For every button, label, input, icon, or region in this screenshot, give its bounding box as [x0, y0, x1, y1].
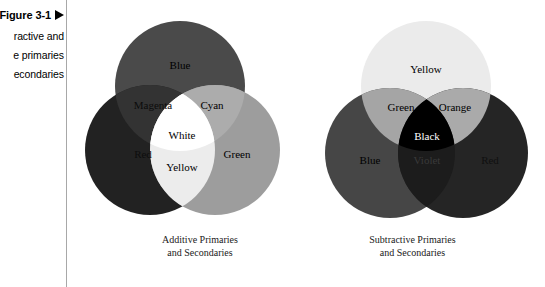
label-black: Black: [414, 130, 440, 142]
additive-venn-svg: Blue Red Green Magenta Cyan White Yellow: [85, 18, 285, 223]
label-green: Green: [224, 148, 251, 160]
additive-caption: Additive Primaries and Secondaries: [130, 233, 270, 259]
subtractive-caption-line-2: and Secondaries: [330, 246, 495, 259]
additive-caption-line-1: Additive Primaries: [130, 233, 270, 246]
label-blue-sub: Blue: [360, 154, 381, 166]
figure-description-line-2: e primaries: [0, 49, 64, 61]
label-yellow-additive: Yellow: [166, 161, 197, 173]
subtractive-caption-line-1: Subtractive Primaries: [330, 233, 495, 246]
label-blue: Blue: [170, 59, 191, 71]
label-red-sub: Red: [481, 154, 499, 166]
figure-number-label: Figure 3-1: [0, 9, 51, 21]
additive-venn-diagram: Blue Red Green Magenta Cyan White Yellow: [85, 18, 285, 223]
left-pointing-triangle-icon: [55, 10, 64, 20]
label-cyan: Cyan: [200, 99, 224, 111]
additive-caption-line-2: and Secondaries: [130, 246, 270, 259]
label-violet: Violet: [414, 154, 441, 166]
label-yellow-sub: Yellow: [410, 63, 441, 75]
margin-caption-column: Figure 3-1 ractive and e primaries econd…: [0, 0, 66, 287]
label-white: White: [169, 129, 196, 141]
subtractive-venn-diagram: Yellow Blue Red Green Orange Violet Blac…: [298, 18, 533, 223]
figure-description-line-1: ractive and: [0, 30, 64, 42]
figure-number-row: Figure 3-1: [0, 9, 64, 21]
figure-description-line-3: econdaries: [0, 68, 64, 80]
subtractive-venn-svg: Yellow Blue Red Green Orange Violet Blac…: [298, 18, 533, 223]
subtractive-caption: Subtractive Primaries and Secondaries: [330, 233, 495, 259]
margin-divider-rule: [66, 0, 67, 287]
label-red: Red: [134, 148, 152, 160]
label-green-sub: Green: [388, 101, 415, 113]
label-orange: Orange: [439, 101, 471, 113]
figure-page: Figure 3-1 ractive and e primaries econd…: [0, 0, 545, 287]
label-magenta: Magenta: [134, 99, 173, 111]
